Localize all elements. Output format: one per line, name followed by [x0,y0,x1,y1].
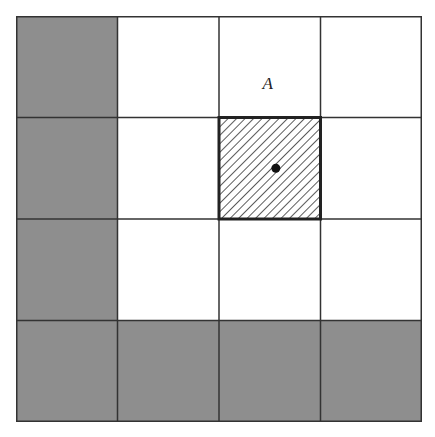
grid-cell-empty [118,219,220,321]
grid-cell-empty [118,16,220,118]
grid-cell-empty [219,219,321,321]
grid-cell-empty [118,118,220,220]
grid-cell-shaded [16,321,118,423]
center-dot [271,164,280,173]
grid-cell-shaded [16,219,118,321]
cell-label-a: A [262,74,274,93]
grid-cell-shaded [16,118,118,220]
grid-cell-empty [321,118,423,220]
grid-diagram: A [16,16,422,422]
grid-cell-shaded [219,321,321,423]
grid-cell-empty [321,219,423,321]
grid-cell-empty [219,16,321,118]
grid-cell-shaded [16,16,118,118]
grid-cell-hatched [219,118,321,220]
grid-cell-shaded [118,321,220,423]
grid-cell-empty [321,16,423,118]
grid-cell-shaded [321,321,423,423]
grid-svg: A [16,16,422,422]
